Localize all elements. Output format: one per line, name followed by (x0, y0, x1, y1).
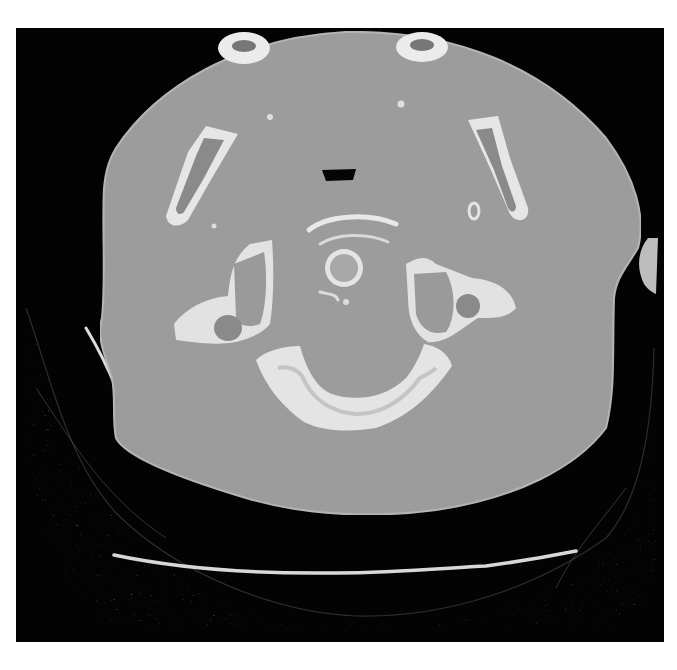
ear-lobe-right (639, 238, 658, 294)
dens (325, 249, 363, 287)
mandible-condyle-left (218, 32, 270, 64)
airway (322, 169, 356, 181)
calcification-right (398, 101, 405, 108)
scan-table-lower (114, 551, 576, 573)
neck-soft-tissue (100, 32, 640, 515)
calcification-left (267, 114, 273, 120)
dens-tip-fragment (343, 299, 349, 305)
calcification-small (212, 224, 217, 229)
transverse-foramen-right (456, 294, 480, 318)
mandible-condyle-right (396, 32, 448, 62)
ct-scan-image: axial CT slice (16, 28, 664, 642)
ct-slice-svg (16, 28, 664, 642)
transverse-foramen-left (214, 315, 242, 341)
